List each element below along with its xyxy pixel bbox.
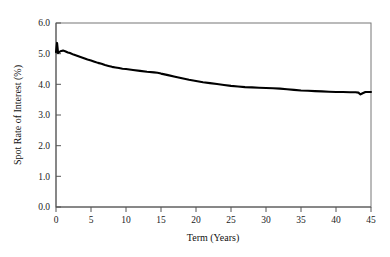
y-tick-label-3: 3.0 xyxy=(38,110,50,120)
x-axis-title: Term (Years) xyxy=(187,232,239,244)
x-tick-label-6: 30 xyxy=(261,215,271,225)
y-tick-label-2: 2.0 xyxy=(38,141,50,151)
x-tick-label-9: 45 xyxy=(366,215,376,225)
x-tick-label-1: 5 xyxy=(89,215,94,225)
y-axis-title: Spot Rate of Interest (%) xyxy=(12,65,24,165)
spot-rate-curve xyxy=(56,43,371,95)
y-tick-label-5: 5.0 xyxy=(38,49,50,59)
chart-figure: 0.0 1.0 2.0 3.0 4.0 5.0 6.0 0 5 10 15 xyxy=(0,0,390,257)
y-tick-label-6: 6.0 xyxy=(38,18,50,28)
x-axis-ticks: 0 5 10 15 20 25 30 35 40 45 xyxy=(54,207,376,225)
x-tick-label-3: 15 xyxy=(156,215,166,225)
x-tick-label-8: 40 xyxy=(331,215,341,225)
spot-rate-line-chart: 0.0 1.0 2.0 3.0 4.0 5.0 6.0 0 5 10 15 xyxy=(0,0,390,257)
y-tick-label-4: 4.0 xyxy=(38,80,50,90)
x-tick-label-2: 10 xyxy=(121,215,131,225)
x-tick-label-7: 35 xyxy=(296,215,306,225)
y-tick-label-1: 1.0 xyxy=(38,172,50,182)
plot-frame xyxy=(56,23,371,207)
x-tick-label-4: 20 xyxy=(191,215,201,225)
y-tick-label-0: 0.0 xyxy=(38,202,50,212)
x-tick-label-5: 25 xyxy=(226,215,236,225)
x-tick-label-0: 0 xyxy=(54,215,59,225)
